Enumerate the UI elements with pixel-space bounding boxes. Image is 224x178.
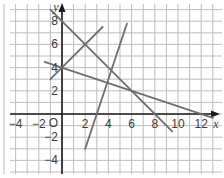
x-tick-label: 4 <box>105 117 112 131</box>
x-tick-label: 8 <box>151 117 158 131</box>
x-tick-label: −4 <box>9 117 23 131</box>
y-axis-arrow-icon <box>59 3 66 12</box>
x-tick-label: 10 <box>171 117 185 131</box>
y-tick-label: −4 <box>44 153 58 167</box>
y-tick-label: −2 <box>44 130 58 144</box>
line-series-item <box>45 62 213 118</box>
y-tick-label: 2 <box>51 84 58 98</box>
y-tick-label: 4 <box>51 61 58 75</box>
plot-area: −4−2246810128642−2−4Oxy <box>0 0 224 178</box>
grid-lines <box>4 4 222 174</box>
coordinate-graph: −4−2246810128642−2−4Oxy <box>0 0 224 178</box>
origin-label: O <box>49 116 58 130</box>
tick-labels: −4−2246810128642−2−4Oxy <box>9 0 220 167</box>
y-axis-label: y <box>52 0 59 14</box>
y-tick-label: 8 <box>51 14 58 28</box>
y-tick-label: 6 <box>51 37 58 51</box>
x-tick-label: 12 <box>195 117 209 131</box>
x-tick-label: 6 <box>128 117 135 131</box>
x-tick-label: −2 <box>32 117 46 131</box>
x-axis-label: x <box>212 117 219 131</box>
x-tick-label: 2 <box>82 117 89 131</box>
